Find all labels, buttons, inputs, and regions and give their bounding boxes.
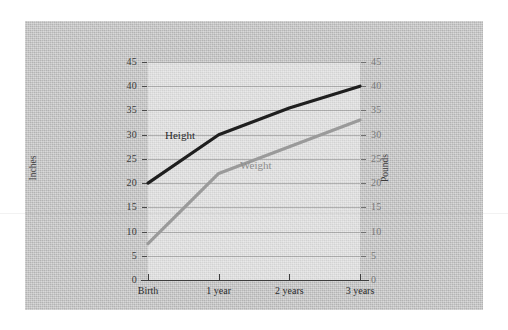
growth-chart: 051015202530354045 051015202530354045 In… xyxy=(25,21,483,310)
height-series-label: Height xyxy=(165,129,195,141)
scan-band xyxy=(0,213,508,214)
figure-panel: 051015202530354045 051015202530354045 In… xyxy=(25,21,483,310)
weight-series-label: Weight xyxy=(240,159,272,171)
